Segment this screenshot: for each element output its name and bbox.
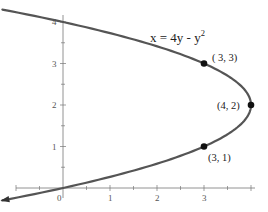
equation-label: x = 4y - y2 xyxy=(150,28,205,45)
y-tick-label: 3 xyxy=(52,59,57,69)
y-tick-label: 2 xyxy=(52,100,57,110)
data-point-label: ( 3, 3) xyxy=(212,52,238,64)
y-ticks: 1234 xyxy=(52,17,66,167)
data-points: ( 3, 3)(4, 2)(3, 1) xyxy=(201,52,255,164)
data-point xyxy=(248,102,255,109)
y-tick-label: 4 xyxy=(52,17,57,27)
data-point xyxy=(201,143,208,150)
parabola-curve xyxy=(2,10,251,201)
x-tick-label: 3 xyxy=(202,193,207,203)
data-point xyxy=(201,60,208,67)
parabola-chart: 0123 1234 ( 3, 3)(4, 2)(3, 1) x = 4y - y… xyxy=(0,0,268,212)
data-point-label: (3, 1) xyxy=(208,152,231,164)
x-tick-label: 2 xyxy=(155,193,160,203)
x-tick-label: 1 xyxy=(108,193,113,203)
x-tick-label: 0 xyxy=(57,193,62,203)
data-point-label: (4, 2) xyxy=(217,100,240,112)
y-tick-label: 1 xyxy=(52,142,57,152)
